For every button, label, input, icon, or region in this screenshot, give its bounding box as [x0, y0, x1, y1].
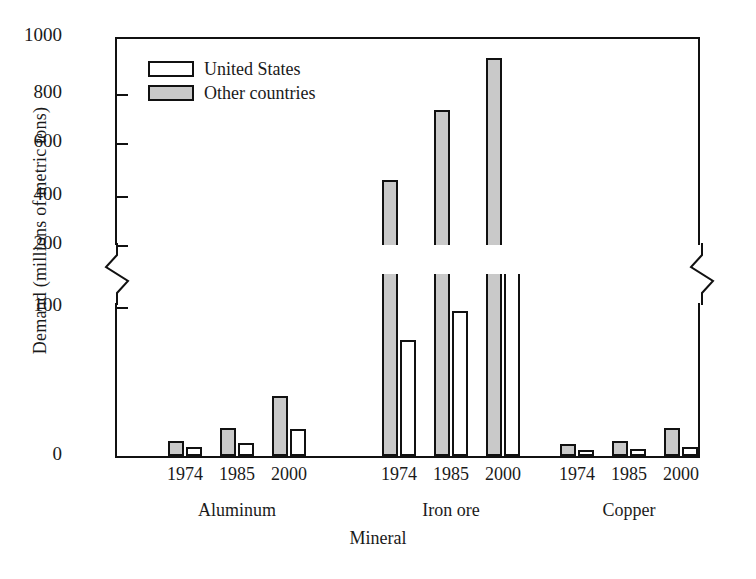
- x-group-label-copper: Copper: [603, 500, 656, 521]
- bar-aluminum-1974-us: [186, 447, 202, 456]
- x-year-label-iron-ore-2000: 2000: [485, 464, 521, 485]
- bar-upper-iron-ore-1974-other: [382, 180, 398, 245]
- y-axis-title: Demand (millions of metric tons): [30, 51, 51, 411]
- chart-container: Demand (millions of metric tons) 1000 80…: [0, 0, 756, 579]
- bar-iron-ore-1974-other: [382, 274, 398, 456]
- x-group-label-iron-ore: Iron ore: [422, 500, 479, 521]
- y-tick-label-400-text: 400: [34, 183, 63, 205]
- bar-iron-ore-1985-us: [452, 311, 468, 456]
- bar-iron-ore-1974-us: [400, 340, 416, 456]
- x-year-label-copper-2000: 2000: [663, 464, 699, 485]
- y-tick-label-1000-text: 1000: [24, 24, 62, 46]
- y-tick-0: [117, 456, 128, 458]
- bar-iron-ore-2000-us: [504, 274, 520, 456]
- bar-upper-iron-ore-2000-other: [486, 58, 502, 245]
- bar-aluminum-1985-us: [238, 443, 254, 456]
- bar-copper-1974-us: [578, 450, 594, 456]
- bar-iron-ore-2000-other: [486, 274, 502, 456]
- bar-aluminum-1974-other: [168, 441, 184, 456]
- x-year-label-iron-ore-1974: 1974: [381, 464, 417, 485]
- y-tick-label-600-text: 600: [34, 130, 63, 152]
- y-tick-label-100-text: 100: [34, 294, 63, 316]
- bar-copper-1985-other: [612, 441, 628, 456]
- x-axis-title: Mineral: [0, 528, 756, 549]
- x-year-label-aluminum-1974: 1974: [167, 464, 203, 485]
- x-year-label-aluminum-2000: 2000: [271, 464, 307, 485]
- bar-aluminum-2000-other: [272, 396, 288, 456]
- y-tick-label-200-text: 200: [34, 232, 63, 254]
- x-year-label-aluminum-1985: 1985: [219, 464, 255, 485]
- y-tick-label-800-text: 800: [34, 81, 63, 103]
- x-year-label-copper-1985: 1985: [611, 464, 647, 485]
- bar-copper-1974-other: [560, 444, 576, 456]
- x-year-label-iron-ore-1985: 1985: [433, 464, 469, 485]
- y-tick-label-0-text: 0: [53, 443, 63, 465]
- x-year-label-copper-1974: 1974: [559, 464, 595, 485]
- bar-copper-2000-other: [664, 428, 680, 456]
- bars-layer: [117, 39, 698, 456]
- bar-aluminum-1985-other: [220, 428, 236, 456]
- bar-copper-1985-us: [630, 449, 646, 456]
- bar-iron-ore-1985-other: [434, 274, 450, 456]
- bar-upper-iron-ore-1985-other: [434, 110, 450, 245]
- bar-copper-2000-us: [682, 447, 698, 456]
- x-group-label-aluminum: Aluminum: [198, 500, 276, 521]
- bar-aluminum-2000-us: [290, 429, 306, 456]
